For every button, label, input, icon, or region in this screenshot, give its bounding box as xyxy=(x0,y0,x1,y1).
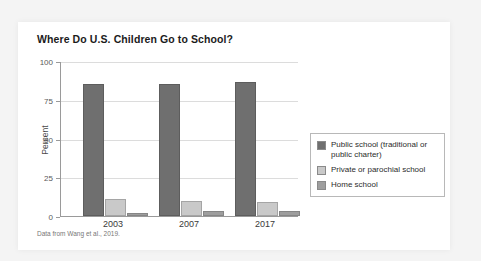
bar-2003-home xyxy=(127,213,148,216)
bar-2017-home xyxy=(279,211,300,216)
bar-2007-home xyxy=(203,211,224,216)
bar-2007-private xyxy=(181,201,202,216)
y-axis-line xyxy=(60,62,61,217)
bar-2017-private xyxy=(257,202,278,216)
chart-legend: Public school (traditional or public cha… xyxy=(310,133,445,197)
x-axis-line xyxy=(60,216,298,217)
x-tick-label-2003: 2003 xyxy=(80,219,146,229)
page-background: Where Do U.S. Children Go to School? 100… xyxy=(0,0,481,261)
page-title: Where Do U.S. Children Go to School? xyxy=(37,33,233,45)
legend-swatch-icon-home xyxy=(317,181,326,190)
bar-2003-private xyxy=(105,199,126,216)
plot-area: 100 75 50 25 0 Percent 2003 2007 xyxy=(60,62,298,217)
x-tick-label-2007: 2007 xyxy=(156,219,222,229)
y-tick-label-75: 75 xyxy=(44,96,53,105)
y-tick-label-25: 25 xyxy=(44,174,53,183)
y-axis-label: Percent xyxy=(40,125,50,154)
source-note: Data from Wang et al., 2019. xyxy=(37,230,120,237)
figure-card: Where Do U.S. Children Go to School? 100… xyxy=(18,22,450,250)
y-tick-label-100: 100 xyxy=(40,58,53,67)
legend-swatch-icon-private xyxy=(317,166,326,175)
legend-label-public: Public school (traditional or public cha… xyxy=(331,140,437,160)
legend-item-home: Home school xyxy=(317,180,437,190)
y-tick-mark-0 xyxy=(56,217,60,218)
bar-2017-public xyxy=(235,82,256,216)
bar-2003-public xyxy=(83,84,104,216)
legend-label-home: Home school xyxy=(331,180,378,190)
bar-2007-public xyxy=(159,84,180,216)
y-tick-mark-100 xyxy=(56,62,60,63)
legend-item-private: Private or parochial school xyxy=(317,165,437,175)
x-tick-label-2017: 2017 xyxy=(232,219,298,229)
bar-group-2003: 2003 xyxy=(80,62,146,216)
legend-label-private: Private or parochial school xyxy=(331,165,425,175)
bar-group-2007: 2007 xyxy=(156,62,222,216)
y-tick-label-0: 0 xyxy=(49,213,53,222)
y-tick-mark-75 xyxy=(56,101,60,102)
y-tick-mark-25 xyxy=(56,178,60,179)
legend-swatch-icon-public xyxy=(317,141,326,150)
y-tick-mark-50 xyxy=(56,140,60,141)
bar-group-2017: 2017 xyxy=(232,62,298,216)
legend-item-public: Public school (traditional or public cha… xyxy=(317,140,437,160)
